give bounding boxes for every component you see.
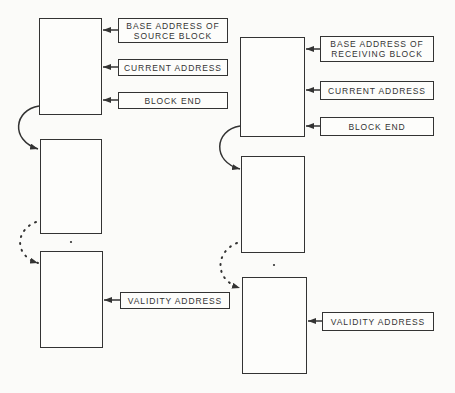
- connector-layer: [0, 0, 455, 393]
- link-source-1-2: [19, 106, 39, 149]
- link-receiving-dotted: [220, 243, 240, 288]
- link-receiving-1-2: [220, 126, 240, 169]
- ellipsis-dot-right: [273, 264, 275, 266]
- ellipsis-dot-left: [70, 241, 72, 243]
- link-source-dotted: [20, 222, 38, 263]
